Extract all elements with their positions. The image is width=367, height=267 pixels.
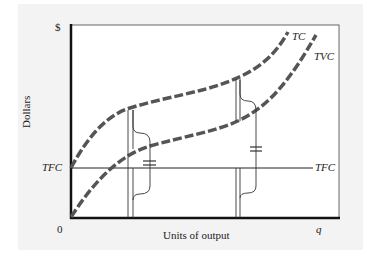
tvc-label: TVC	[314, 50, 334, 62]
tc-label: TC	[292, 30, 305, 42]
tfc-label-left: TFC	[42, 161, 62, 173]
cost-curves-chart	[0, 0, 367, 267]
y-axis-label: Dollars	[20, 96, 32, 128]
x-axis-end-label: q	[316, 223, 322, 235]
origin-label: 0	[57, 223, 63, 235]
x-axis-label: Units of output	[163, 229, 230, 241]
tfc-label-right: TFC	[315, 161, 335, 173]
plot-area	[71, 25, 339, 218]
y-axis-top-label: $	[55, 21, 61, 33]
